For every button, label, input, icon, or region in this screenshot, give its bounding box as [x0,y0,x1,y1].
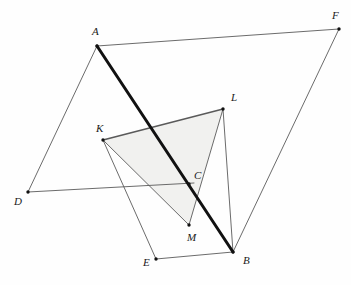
vertex-point-K [101,138,104,141]
vertex-point-D [26,190,29,193]
vertex-point-A [95,44,98,47]
point-label-B: B [243,254,250,266]
point-label-A: A [91,25,99,37]
vertex-point-C [187,182,190,185]
point-label-F: F [331,9,339,21]
point-label-M: M [186,231,197,243]
vertex-point-L [221,107,224,110]
vertex-point-B [231,250,234,253]
point-label-E: E [142,256,150,268]
geometry-canvas: A B C D E F K L M [0,0,351,285]
vertex-point-F [337,27,340,30]
point-label-C: C [194,169,202,181]
point-label-L: L [230,91,237,103]
point-label-D: D [13,195,22,207]
vertex-point-E [154,257,157,260]
point-label-K: K [95,122,104,134]
geometry-figure: A B C D E F K L M [0,0,351,285]
vertex-point-M [187,223,190,226]
